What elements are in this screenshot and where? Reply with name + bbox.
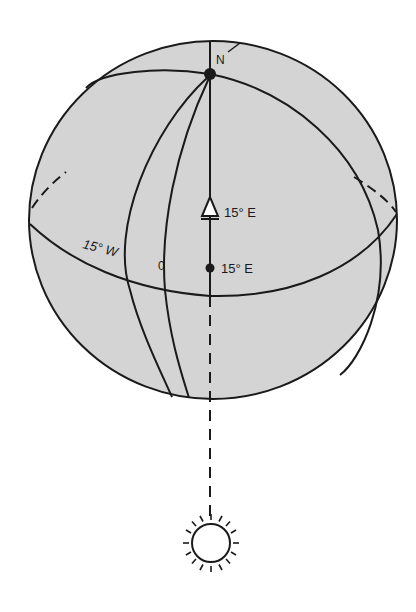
globe: N 15° E 15° E 15° W 0 xyxy=(29,41,397,399)
north-pole-label: N xyxy=(216,53,225,67)
north-pole-dot xyxy=(204,68,216,80)
meridian-0-label: 0 xyxy=(158,259,165,273)
subsolar-dot xyxy=(206,264,215,273)
triangle-marker-label: 15° E xyxy=(224,205,256,220)
sun-icon xyxy=(183,514,239,572)
subsolar-dot-label: 15° E xyxy=(221,261,253,276)
globe-sun-diagram: N 15° E 15° E 15° W 0 xyxy=(0,0,416,612)
